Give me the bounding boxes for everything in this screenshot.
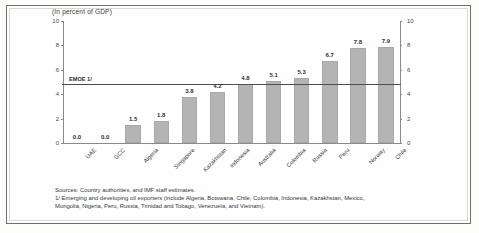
y-tickmark-left-0 (61, 143, 63, 144)
y-tickmark-right-6 (400, 70, 402, 71)
y-tick-left-6: 6 (45, 67, 59, 73)
bar-singapore[interactable] (154, 121, 169, 143)
bar-value-label-chile: 7.9 (372, 38, 400, 45)
y-axis-right (400, 21, 401, 143)
figure-notes: Sources: Country authorities, and IMF st… (55, 186, 455, 211)
bar-kazakhstan[interactable] (182, 97, 197, 143)
y-tick-right-4: 4 (407, 91, 421, 97)
bar-value-label-algeria: 1.5 (119, 116, 147, 123)
y-tick-right-10: 10 (407, 18, 421, 24)
y-tick-right-0: 0 (407, 140, 421, 146)
y-tickmark-right-4 (400, 94, 402, 95)
bar-value-label-kazakhstan: 3.8 (175, 88, 203, 95)
chart-title: (In percent of GDP) (52, 8, 112, 15)
bar-value-label-peru: 6.7 (316, 52, 344, 59)
y-tickmark-right-0 (400, 143, 402, 144)
bar-colombia[interactable] (266, 81, 281, 143)
y-tickmark-right-2 (400, 119, 402, 120)
notes-footnote-line-2: Mongolia, Nigeria, Peru, Russia, Trinida… (55, 202, 455, 210)
y-tick-left-10: 10 (45, 18, 59, 24)
y-tick-left-8: 8 (45, 42, 59, 48)
bar-value-label-colombia: 5.1 (260, 72, 288, 79)
bar-indonesia[interactable] (210, 92, 225, 143)
emoe-reference-label: EMOE 1/ (69, 76, 92, 82)
y-tick-left-4: 4 (45, 91, 59, 97)
bar-value-label-australia: 4.8 (232, 75, 260, 82)
bar-value-label-uae: 0.0 (63, 134, 91, 141)
y-tickmark-right-8 (400, 45, 402, 46)
y-tick-right-6: 6 (407, 67, 421, 73)
y-tick-left-0: 0 (45, 140, 59, 146)
bar-norway[interactable] (350, 48, 365, 143)
bar-algeria[interactable] (125, 125, 140, 143)
emoe-reference-line (62, 84, 401, 85)
bar-australia[interactable] (238, 84, 253, 143)
y-tick-right-2: 2 (407, 116, 421, 122)
notes-footnote-line-1: 1/ Emerging and developing oil exporters… (55, 194, 455, 202)
notes-sources-line: Sources: Country authorities, and IMF st… (55, 186, 455, 194)
bar-russia[interactable] (294, 78, 309, 143)
bar-peru[interactable] (322, 61, 337, 143)
x-axis (63, 143, 401, 144)
figure-container: (In percent of GDP) 0246810 0246810 UAEG… (0, 0, 479, 233)
y-tick-right-8: 8 (407, 42, 421, 48)
bar-value-label-gcc: 0.0 (91, 134, 119, 141)
y-tick-left-2: 2 (45, 116, 59, 122)
bar-value-label-norway: 7.8 (344, 39, 372, 46)
bar-value-label-singapore: 1.8 (147, 112, 175, 119)
bar-value-label-russia: 5.3 (288, 69, 316, 76)
bar-chile[interactable] (378, 47, 393, 143)
y-tickmark-right-10 (400, 21, 402, 22)
bar-value-label-indonesia: 4.2 (203, 83, 231, 90)
